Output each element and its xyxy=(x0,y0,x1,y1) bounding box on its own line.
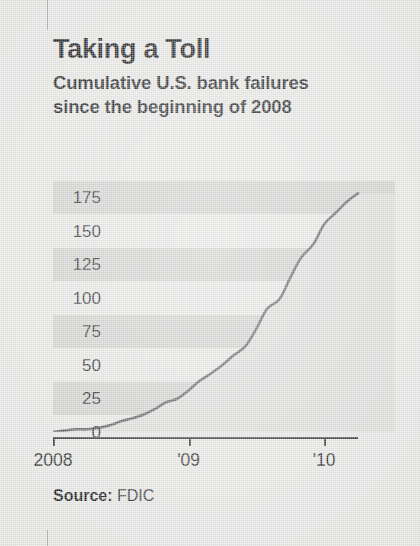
page-gutter-rule-top xyxy=(47,0,48,30)
x-tick-2010 xyxy=(324,437,326,446)
y-tick-label-150: 150 xyxy=(55,222,101,239)
plot-area: 0255075100125150175 xyxy=(53,184,395,432)
source-value: FDIC xyxy=(117,487,154,504)
chart-page: Taking a Toll Cumulative U.S. bank failu… xyxy=(0,0,420,546)
x-tick-label-2009: '09 xyxy=(177,450,200,471)
x-tick-label-2008: 2008 xyxy=(34,450,73,471)
y-axis-tick-label-group: 0255075100125150175 xyxy=(53,184,101,432)
y-tick-label-125: 125 xyxy=(55,256,101,273)
x-tick-label-2010: '10 xyxy=(313,450,336,471)
y-tick-label-25: 25 xyxy=(55,390,101,407)
x-tick-2008 xyxy=(53,437,55,446)
page-gutter-rule-bottom xyxy=(47,530,48,546)
y-tick-label-50: 50 xyxy=(55,356,101,373)
page-title: Taking a Toll xyxy=(53,36,383,63)
source-label: Source: xyxy=(53,487,113,504)
area-series-svg xyxy=(53,184,395,432)
y-tick-label-100: 100 xyxy=(55,289,101,306)
source-note: Source: FDIC xyxy=(53,487,154,505)
area-fill-path xyxy=(53,193,395,432)
chart-subtitle-line-1: Cumulative U.S. bank failures xyxy=(53,71,383,95)
y-tick-label-75: 75 xyxy=(55,323,101,340)
chart-header: Taking a Toll Cumulative U.S. bank failu… xyxy=(53,36,383,120)
x-axis-line xyxy=(53,437,358,439)
x-tick-2009 xyxy=(189,437,191,446)
chart-subtitle-line-2: since the beginning of 2008 xyxy=(53,95,383,119)
y-tick-label-175: 175 xyxy=(55,189,101,206)
